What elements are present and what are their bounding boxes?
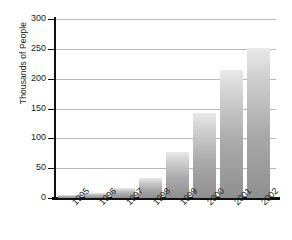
gridline <box>56 49 276 50</box>
y-tick-label: 300 <box>20 14 46 23</box>
bar <box>193 113 216 198</box>
gridline <box>56 19 276 20</box>
y-tick-label: 200 <box>20 74 46 83</box>
y-axis-tick-labels: 050100150200250300 <box>20 0 46 240</box>
y-tick-label: 0 <box>20 193 46 202</box>
y-tick-label: 50 <box>20 163 46 172</box>
plot-area <box>56 19 272 198</box>
bar-chart: Thousands of People 050100150200250300 1… <box>0 0 292 240</box>
x-axis-tick-labels: 19951996199719981999200020012002 <box>56 200 276 240</box>
y-tick-label: 250 <box>20 44 46 53</box>
y-tick-label: 150 <box>20 104 46 113</box>
y-tick-label: 100 <box>20 133 46 142</box>
bar <box>220 70 243 198</box>
bar <box>247 48 270 198</box>
